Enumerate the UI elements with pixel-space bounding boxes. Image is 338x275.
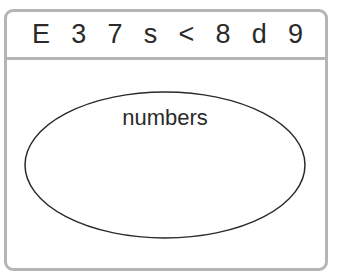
set-label-numbers: numbers xyxy=(0,105,330,131)
set-diagram xyxy=(0,0,338,275)
